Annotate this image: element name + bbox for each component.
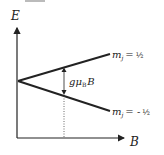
zeeman-diagram: E B gμBB mj=½ mj= -½ — [0, 0, 164, 155]
x-axis-label: B — [129, 135, 139, 149]
lower-level-label: mj= -½ — [112, 106, 150, 119]
cut-off-text — [25, 0, 45, 2]
y-axis-label: E — [10, 9, 20, 23]
splitting-label: gμBB — [69, 76, 95, 88]
upper-level-label: mj=½ — [112, 49, 144, 62]
arrow-down-icon — [62, 90, 67, 95]
